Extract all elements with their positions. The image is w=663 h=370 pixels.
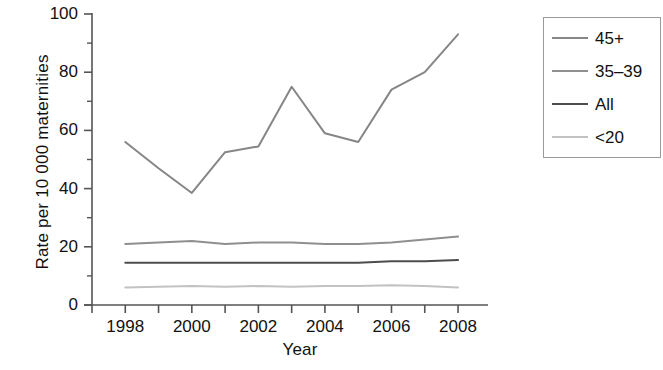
- legend-item-label: <20: [595, 129, 624, 146]
- legend-item-label: All: [595, 96, 614, 113]
- legend-item-label: 35–39: [595, 63, 642, 80]
- legend-item-label: 45+: [595, 30, 624, 47]
- legend-line-swatch: [552, 136, 588, 138]
- legend-item[interactable]: 45+: [552, 27, 624, 49]
- chart-figure: Rate per 10 000 maternities Year 0204060…: [0, 0, 663, 370]
- chart-legend: 45+35–39All<20: [543, 17, 661, 158]
- legend-line-swatch: [552, 37, 588, 39]
- legend-item[interactable]: 35–39: [552, 60, 642, 82]
- series-line-20: [125, 285, 458, 287]
- legend-item[interactable]: All: [552, 93, 614, 115]
- series-line-all: [125, 260, 458, 263]
- legend-item[interactable]: <20: [552, 126, 624, 148]
- legend-line-swatch: [552, 70, 588, 72]
- legend-line-swatch: [552, 103, 588, 105]
- series-line-45: [125, 34, 458, 193]
- series-line-35-39: [125, 237, 458, 244]
